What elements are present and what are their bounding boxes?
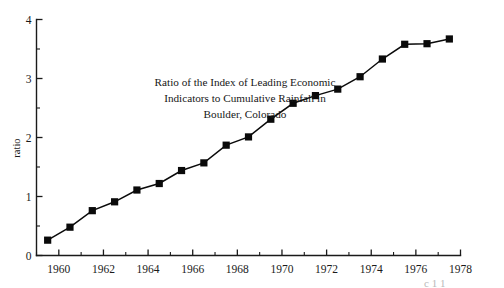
data-point-marker: [200, 159, 207, 166]
page-edge-artifact: c 1 1: [424, 277, 445, 288]
x-tick-label: 1976: [404, 263, 427, 275]
data-point-marker: [223, 142, 230, 149]
data-point-marker: [446, 35, 453, 42]
x-tick-label: 1974: [360, 263, 383, 275]
chart-title-line-1: Ratio of the Index of Leading Economic: [155, 76, 336, 88]
x-tick-label: 1964: [137, 263, 160, 275]
data-point-marker: [356, 73, 363, 80]
data-point-marker: [156, 180, 163, 187]
x-tick-label: 1972: [315, 263, 338, 275]
data-point-marker: [89, 207, 96, 214]
y-tick-label: 4: [26, 14, 32, 26]
axis-tick-labels: 1960196219641966196819701972197419761978…: [26, 14, 473, 275]
data-point-marker: [111, 198, 118, 205]
x-tick-label: 1968: [226, 263, 249, 275]
data-point-marker: [423, 40, 430, 47]
y-tick-label: 1: [26, 191, 32, 203]
line-chart: 1960196219641966196819701972197419761978…: [0, 0, 504, 288]
x-tick-label: 1978: [449, 263, 472, 275]
x-tick-label: 1960: [47, 263, 70, 275]
chart-figure: 1960196219641966196819701972197419761978…: [0, 0, 504, 288]
x-tick-label: 1970: [270, 263, 293, 275]
x-tick-label: 1966: [181, 263, 204, 275]
y-axis-label: ratio: [11, 138, 22, 157]
chart-title-line-2: Indicators to Cumulative Rainfall in: [164, 92, 326, 104]
data-markers: [44, 35, 453, 243]
y-tick-label: 0: [26, 250, 32, 262]
data-point-marker: [379, 55, 386, 62]
data-point-marker: [401, 41, 408, 48]
data-point-marker: [66, 224, 73, 231]
data-point-marker: [44, 237, 51, 244]
x-tick-label: 1962: [92, 263, 115, 275]
data-point-marker: [245, 133, 252, 140]
data-point-marker: [133, 186, 140, 193]
y-tick-label: 3: [26, 73, 32, 85]
data-point-marker: [178, 167, 185, 174]
y-tick-label: 2: [26, 132, 32, 144]
chart-title-line-3: Boulder, Colorado: [204, 108, 287, 120]
